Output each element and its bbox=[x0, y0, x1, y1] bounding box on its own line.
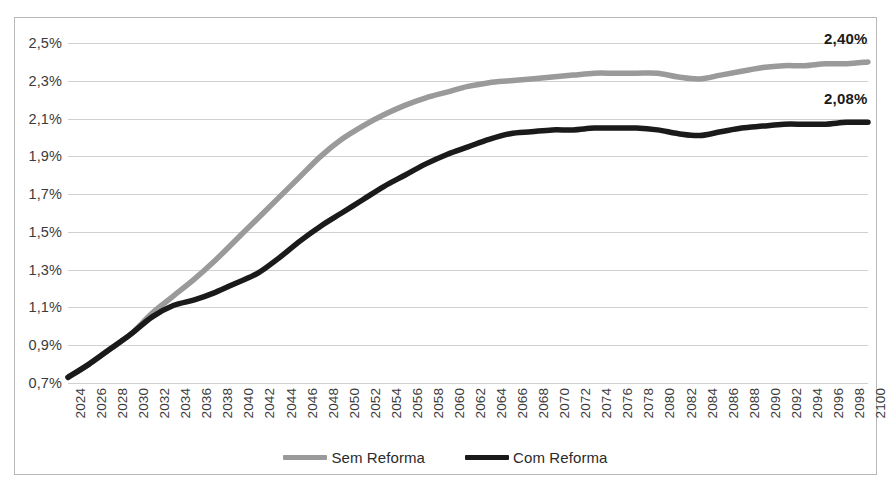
x-axis-tick-label: 2062 bbox=[473, 388, 488, 418]
x-axis-tick-label: 2086 bbox=[726, 388, 741, 418]
chart-legend: Sem ReformaCom Reforma bbox=[14, 445, 877, 469]
x-axis-tick-label: 2046 bbox=[305, 388, 320, 418]
x-axis-tick-label: 2064 bbox=[494, 388, 509, 418]
legend-label: Com Reforma bbox=[513, 449, 607, 466]
x-axis-tick-label: 2034 bbox=[178, 388, 193, 418]
x-axis-tick-label: 2024 bbox=[73, 388, 88, 418]
y-axis-tick-label: 1,1% bbox=[29, 299, 62, 315]
x-axis-tick-label: 2090 bbox=[768, 388, 783, 418]
y-axis-tick-label: 0,7% bbox=[29, 375, 62, 391]
legend-item-sem-reforma[interactable]: Sem Reforma bbox=[283, 449, 425, 466]
series-line-sem-reforma bbox=[68, 62, 868, 377]
x-axis-tick-label: 2058 bbox=[431, 388, 446, 418]
legend-swatch-icon bbox=[283, 455, 327, 460]
x-axis-tick-label: 2028 bbox=[115, 388, 130, 418]
y-axis-tick-label: 1,9% bbox=[29, 148, 62, 164]
y-axis-tick-label: 2,1% bbox=[29, 111, 62, 127]
x-axis-tick-label: 2074 bbox=[599, 388, 614, 418]
chart-container: 0,7%0,9%1,1%1,3%1,5%1,7%1,9%2,1%2,3%2,5%… bbox=[0, 0, 895, 491]
x-axis-tick-label: 2042 bbox=[262, 388, 277, 418]
series-line-com-reforma bbox=[68, 122, 868, 377]
x-axis-tick-label: 2036 bbox=[199, 388, 214, 418]
data-label-com-reforma: 2,08% bbox=[824, 90, 868, 107]
x-axis-tick-label: 2054 bbox=[389, 388, 404, 418]
x-axis-tick-label: 2096 bbox=[831, 388, 846, 418]
x-axis-tick-label: 2098 bbox=[852, 388, 867, 418]
x-axis-tick-label: 2094 bbox=[810, 388, 825, 418]
legend-label: Sem Reforma bbox=[331, 449, 425, 466]
series-lines bbox=[68, 43, 868, 383]
plot-area bbox=[68, 43, 868, 383]
x-axis-tick-label: 2078 bbox=[641, 388, 656, 418]
x-axis-tick-label: 2048 bbox=[326, 388, 341, 418]
y-axis-tick-label: 2,3% bbox=[29, 73, 62, 89]
x-axis-tick-label: 2040 bbox=[241, 388, 256, 418]
legend-swatch-icon bbox=[465, 455, 509, 460]
y-axis-tick-label: 2,5% bbox=[29, 35, 62, 51]
x-axis-tick-label: 2070 bbox=[557, 388, 572, 418]
y-axis-tick-label: 1,7% bbox=[29, 186, 62, 202]
x-axis-tick-label: 2068 bbox=[536, 388, 551, 418]
x-axis-tick-label: 2056 bbox=[410, 388, 425, 418]
x-axis-tick-label: 2038 bbox=[220, 388, 235, 418]
y-axis-tick-label: 1,3% bbox=[29, 262, 62, 278]
x-axis-tick-label: 2032 bbox=[157, 388, 172, 418]
y-axis-tick-label: 0,9% bbox=[29, 337, 62, 353]
x-axis-tick-label: 2072 bbox=[578, 388, 593, 418]
x-axis-tick-label: 2026 bbox=[94, 388, 109, 418]
legend-item-com-reforma[interactable]: Com Reforma bbox=[465, 449, 607, 466]
data-label-sem-reforma: 2,40% bbox=[824, 30, 868, 47]
x-axis-tick-label: 2066 bbox=[515, 388, 530, 418]
y-axis-tick-label: 1,5% bbox=[29, 224, 62, 240]
x-axis-tick-label: 2076 bbox=[620, 388, 635, 418]
y-axis: 0,7%0,9%1,1%1,3%1,5%1,7%1,9%2,1%2,3%2,5% bbox=[14, 0, 62, 491]
x-axis-tick-label: 2100 bbox=[873, 388, 888, 418]
x-axis-tick-label: 2060 bbox=[452, 388, 467, 418]
x-axis-tick-label: 2082 bbox=[684, 388, 699, 418]
x-axis-tick-label: 2084 bbox=[705, 388, 720, 418]
x-axis-tick-label: 2080 bbox=[662, 388, 677, 418]
x-axis-tick-label: 2088 bbox=[747, 388, 762, 418]
x-axis-tick-label: 2050 bbox=[347, 388, 362, 418]
x-axis: 2024202620282030203220342036203820402042… bbox=[68, 388, 868, 444]
gridline bbox=[68, 383, 868, 384]
x-axis-tick-label: 2044 bbox=[284, 388, 299, 418]
x-axis-tick-label: 2030 bbox=[136, 388, 151, 418]
x-axis-tick-label: 2052 bbox=[368, 388, 383, 418]
x-axis-tick-label: 2092 bbox=[789, 388, 804, 418]
